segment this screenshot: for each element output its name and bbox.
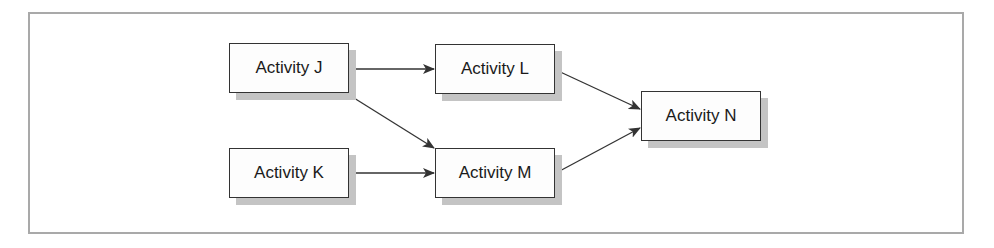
node-activity-n: Activity N bbox=[641, 91, 761, 141]
edges-layer bbox=[0, 0, 994, 248]
node-activity-j: Activity J bbox=[229, 43, 349, 93]
node-label: Activity N bbox=[666, 106, 737, 126]
edge-m-to-n bbox=[556, 128, 640, 173]
node-label: Activity L bbox=[461, 59, 529, 79]
node-label: Activity M bbox=[459, 163, 532, 183]
edge-l-to-n bbox=[556, 70, 640, 109]
node-activity-k: Activity K bbox=[229, 148, 349, 198]
edge-j-to-m bbox=[346, 93, 434, 148]
node-activity-m: Activity M bbox=[435, 148, 555, 198]
node-activity-l: Activity L bbox=[435, 44, 555, 94]
node-label: Activity K bbox=[254, 163, 324, 183]
node-label: Activity J bbox=[255, 58, 322, 78]
